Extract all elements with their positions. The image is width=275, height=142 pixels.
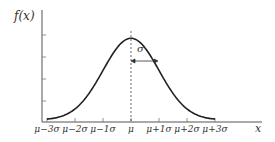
x-tick-label: μ−1σ: [90, 124, 115, 134]
normal-curve: [47, 38, 215, 119]
x-tick-label: μ+3σ: [202, 124, 227, 134]
x-tick-label: μ−3σ: [34, 124, 59, 134]
x-axis-label: x: [255, 122, 261, 135]
x-tick-label: μ: [128, 124, 134, 134]
x-tick-label: μ+2σ: [174, 124, 199, 134]
y-axis-label: f(x): [14, 9, 35, 23]
sigma-label: σ: [137, 43, 144, 54]
y-ticks: [42, 35, 46, 101]
sigma-arrow: [131, 59, 158, 63]
x-tick-label: μ+1σ: [146, 124, 171, 134]
normal-distribution-figure: [0, 0, 275, 142]
x-tick-label: μ−2σ: [62, 124, 87, 134]
